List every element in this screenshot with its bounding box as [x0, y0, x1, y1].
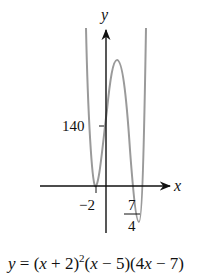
x-tick-label-neg2: −2: [79, 197, 95, 213]
function-curve: [86, 28, 146, 222]
chart-canvas: y x 140 −2 7 4 y = (x + 2)2(x − 5)(4x − …: [0, 0, 220, 280]
frac-numerator: 7: [128, 197, 136, 213]
frac-denominator: 4: [128, 218, 136, 234]
x-axis-label: x: [173, 177, 181, 194]
eq-part: − 5)(4: [98, 254, 145, 273]
y-axis-label: y: [99, 6, 109, 24]
equation-caption: y = (x + 2)2(x − 5)(4x − 7): [6, 252, 184, 273]
eq-y: y: [6, 254, 16, 273]
eq-part: − 7): [152, 254, 184, 273]
eq-part: + 2): [47, 254, 79, 273]
eq-part: = (: [16, 254, 40, 273]
y-tick-label-140: 140: [62, 118, 85, 134]
